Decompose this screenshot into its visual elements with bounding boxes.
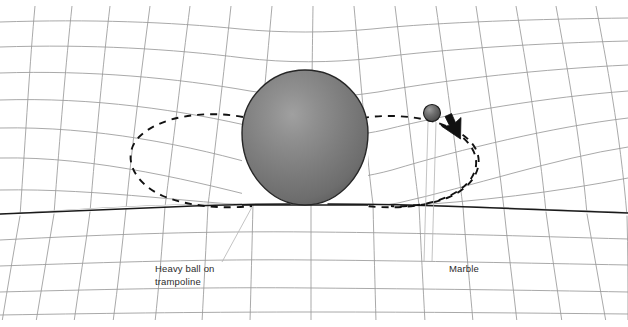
trampoline-depression-rim: [0, 204, 628, 214]
figure-container: Heavy ball on trampoline Marble: [0, 0, 628, 327]
leader-line-marble-left: [424, 122, 428, 262]
grid-horizontals-lower: [0, 203, 628, 315]
heavy-ball: [242, 70, 368, 205]
heavy-ball-label-line2: trampoline: [155, 276, 201, 287]
heavy-ball-label-line1: Heavy ball on: [155, 263, 215, 274]
gravity-well-illustration: Heavy ball on trampoline Marble: [0, 0, 628, 327]
direction-arrow-icon: [442, 114, 461, 140]
leader-line-heavy-ball: [222, 207, 252, 262]
marble-label: Marble: [449, 263, 479, 274]
marble: [424, 105, 441, 122]
leader-line-marble-right: [432, 122, 436, 262]
